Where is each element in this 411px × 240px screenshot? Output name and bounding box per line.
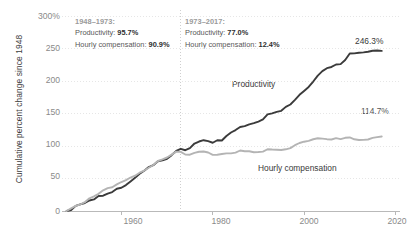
plot-area <box>0 0 411 240</box>
axis-lines <box>62 211 400 215</box>
series-lines <box>67 50 382 211</box>
productivity-pay-gap-chart: Cumulative percent change since 1948 300… <box>0 0 411 240</box>
